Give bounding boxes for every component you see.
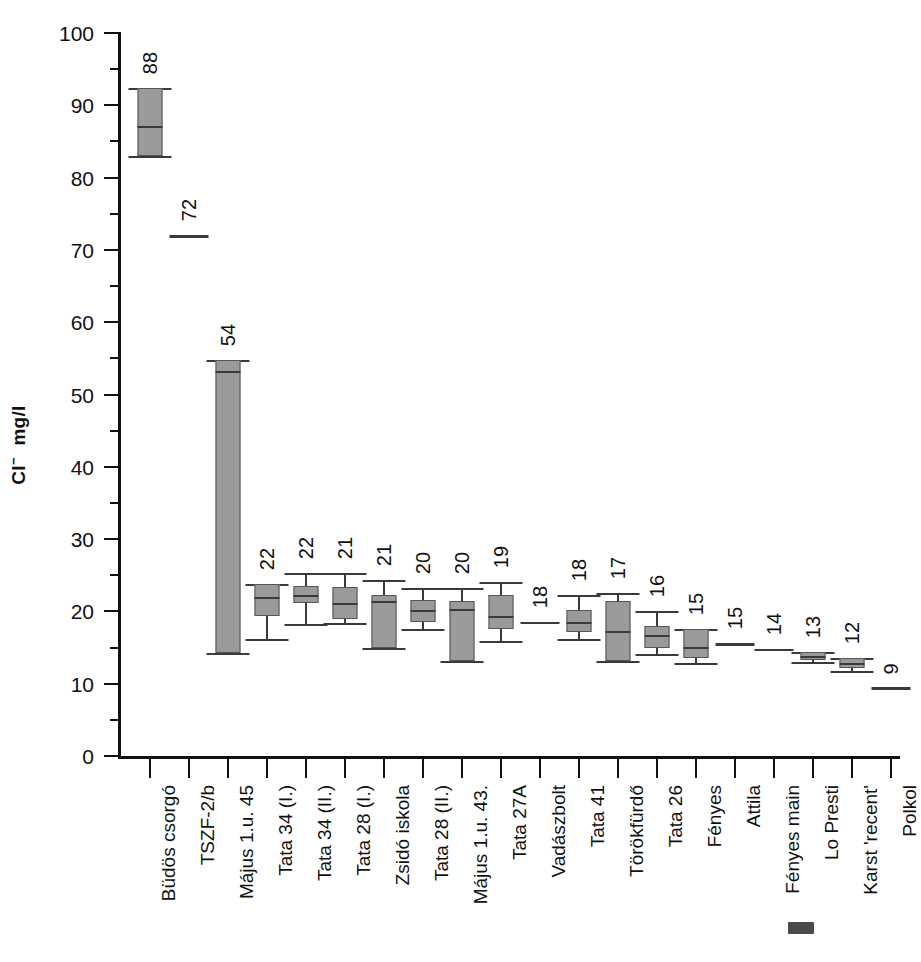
x-tick <box>500 759 502 778</box>
x-axis-label[interactable]: Tata 26 <box>665 785 687 955</box>
x-tick <box>383 759 385 778</box>
x-tick <box>188 759 190 778</box>
x-axis-label[interactable]: Attila <box>743 785 765 955</box>
y-tick-minor <box>110 647 121 649</box>
x-tick <box>227 759 229 778</box>
x-axis-label[interactable]: Tata 27A <box>509 785 531 955</box>
x-axis-label[interactable]: Május 1.u. 43. <box>470 785 492 955</box>
y-tick-major <box>104 755 121 757</box>
y-tick-minor <box>110 285 121 287</box>
x-tick <box>773 759 775 778</box>
y-tick-major <box>104 394 121 396</box>
page-corner-mark <box>788 922 814 934</box>
x-axis-label[interactable]: Karst 'recent' <box>860 785 882 955</box>
y-tick-minor <box>110 213 121 215</box>
x-tick <box>812 759 814 778</box>
y-tick-minor <box>110 574 121 576</box>
x-tick <box>461 759 463 778</box>
x-axis-label[interactable]: Tata 28 (II.) <box>431 785 453 955</box>
x-tick <box>539 759 541 778</box>
y-tick-minor <box>110 68 121 70</box>
y-tick-major <box>104 321 121 323</box>
x-tick <box>617 759 619 778</box>
x-axis-label[interactable]: Tata 28 (I.) <box>353 785 375 955</box>
x-axis-label[interactable]: Vadászbolt <box>548 785 570 955</box>
x-tick <box>305 759 307 778</box>
x-axis-label[interactable]: Lo Presti <box>821 785 843 955</box>
x-tick <box>851 759 853 778</box>
y-tick-major <box>104 249 121 251</box>
x-tick <box>578 759 580 778</box>
x-tick <box>422 759 424 778</box>
x-tick <box>149 759 151 778</box>
x-axis-label[interactable]: Május 1.u. 45 <box>236 785 258 955</box>
x-axis-label[interactable]: Polkol <box>899 785 921 955</box>
x-tick <box>344 759 346 778</box>
y-tick-major <box>104 177 121 179</box>
x-tick <box>734 759 736 778</box>
x-axis-label[interactable]: Büdös csorgó <box>158 785 180 955</box>
x-tick <box>890 759 892 778</box>
x-axis-label[interactable]: Tata 41 <box>587 785 609 955</box>
y-tick-major <box>104 538 121 540</box>
y-tick-major <box>104 104 121 106</box>
x-axis-label[interactable]: Zsidó iskola <box>392 785 414 955</box>
x-axis-label[interactable]: TSZF-2/b <box>197 785 219 955</box>
x-tick <box>656 759 658 778</box>
x-axis-label[interactable]: Tata 34 (I.) <box>275 785 297 955</box>
y-tick-minor <box>110 357 121 359</box>
y-tick-minor <box>110 502 121 504</box>
y-tick-minor <box>110 719 121 721</box>
x-axis-label[interactable]: Törökfürdő <box>626 785 648 955</box>
x-tick <box>695 759 697 778</box>
y-tick-minor <box>110 140 121 142</box>
y-tick-minor <box>110 430 121 432</box>
y-tick-major <box>104 610 121 612</box>
y-tick-major <box>104 683 121 685</box>
y-tick-major <box>104 32 121 34</box>
x-axis-label[interactable]: Fényes <box>704 785 726 955</box>
x-tick <box>266 759 268 778</box>
x-axis-label[interactable]: Tata 34 (II.) <box>314 785 336 955</box>
y-tick-major <box>104 466 121 468</box>
